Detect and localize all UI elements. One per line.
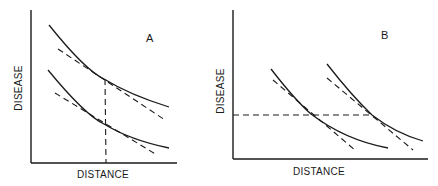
panel-a-upper-tangent (58, 49, 165, 120)
panel-b: B DISTANCE DISEASE (215, 10, 428, 177)
panel-a-distance-marker (105, 79, 106, 163)
disease-distance-diagram: A DISTANCE DISEASE B DISTANCE DISEASE (0, 0, 438, 186)
panel-b-y-label: DISEASE (215, 68, 226, 113)
panel-b-x-label: DISTANCE (293, 166, 345, 177)
panel-b-label: B (381, 29, 388, 41)
panel-a: A DISTANCE DISEASE (13, 10, 177, 180)
panel-b-right-tangent (327, 78, 413, 150)
panel-b-left-curve (271, 69, 388, 148)
panel-a-x-label: DISTANCE (77, 169, 129, 180)
panel-a-y-label: DISEASE (13, 65, 24, 110)
panel-b-right-curve (327, 64, 423, 141)
panel-a-label: A (146, 32, 154, 44)
